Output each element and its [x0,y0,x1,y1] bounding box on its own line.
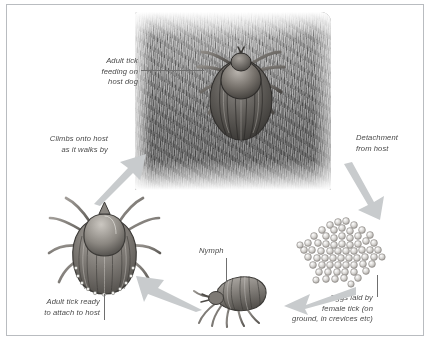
arrow-climbs-onto-host [88,150,150,206]
label-adult-tick-ready: Adult tick ready to attach to host [20,297,100,318]
leader-line-adult-feeding [141,70,204,71]
label-climbs-onto-host: Climbs onto host as it walks by [20,134,108,155]
nymph-tick [192,267,274,329]
label-detachment-from-host: Detachment from host [356,133,426,154]
leader-line-adult-ready [104,294,105,320]
diagram-canvas: Adult tick feeding on host dog [0,0,433,346]
leader-line-nymph [226,258,227,282]
arrow-nymph-to-adult [130,274,202,312]
leader-line-eggs [377,275,378,297]
fur-fade-bottom [135,160,331,190]
engorged-adult-tick [193,28,289,144]
arrow-eggs-to-nymph [282,285,356,315]
label-adult-tick-feeding: Adult tick feeding on host dog [60,56,138,88]
arrow-detachment-from-host [340,162,392,220]
fur-fade-right [313,12,331,190]
label-nymph: Nymph [199,246,249,257]
